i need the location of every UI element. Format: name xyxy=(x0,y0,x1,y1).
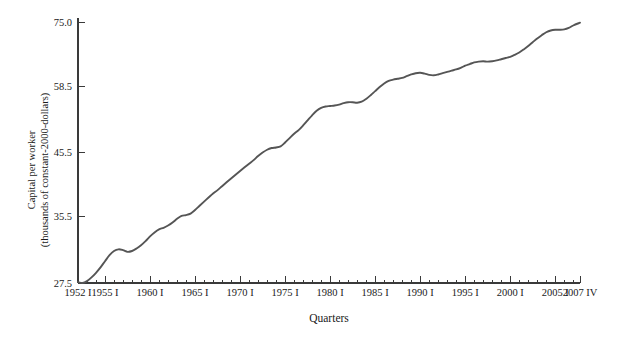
x-tick-label: 1960 I xyxy=(136,287,164,298)
x-axis-title: Quarters xyxy=(309,312,349,324)
y-tick-label: 45.5 xyxy=(54,147,72,158)
x-tick-label: 2007 IV xyxy=(563,287,598,298)
x-axis-ticks: 1952 I1955 I1960 I1965 I1970 I1975 I1980… xyxy=(64,276,597,298)
y-axis-title-group: Capital per worker (thousands of constan… xyxy=(26,92,51,247)
y-tick-label: 75.0 xyxy=(54,17,72,28)
x-tick-label: 1955 I xyxy=(91,287,119,298)
x-tick-label: 1985 I xyxy=(362,287,390,298)
x-tick-label: 1965 I xyxy=(181,287,209,298)
x-tick-label: 1952 I xyxy=(64,287,92,298)
x-tick-label: 1980 I xyxy=(317,287,345,298)
y-axis-title-line1: Capital per worker xyxy=(26,130,37,209)
x-tick-label: 1970 I xyxy=(227,287,255,298)
chart-figure: Capital per worker (thousands of constan… xyxy=(0,0,628,339)
x-tick-label: 1995 I xyxy=(452,287,480,298)
capital-per-worker-line-chart: Capital per worker (thousands of constan… xyxy=(0,0,628,339)
x-tick-label: 2000 I xyxy=(497,287,525,298)
y-axis-ticks: 27.535.545.558.575.0 xyxy=(54,17,85,289)
x-tick-label: 1975 I xyxy=(272,287,300,298)
y-axis-title-line2: (thousands of constant-2000-dollars) xyxy=(39,92,51,247)
capital-per-worker-series xyxy=(78,23,580,283)
y-tick-label: 58.5 xyxy=(54,81,72,92)
x-tick-label: 1990 I xyxy=(407,287,435,298)
y-tick-label: 35.5 xyxy=(54,211,72,222)
